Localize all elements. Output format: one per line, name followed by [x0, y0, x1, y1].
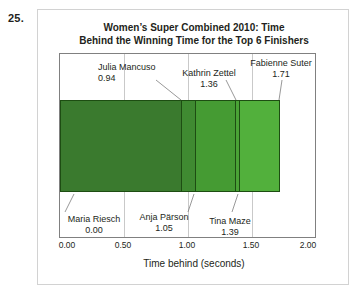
callout-tina-maze-value: 1.39 [202, 227, 258, 238]
x-tick-2: 1.00 [179, 240, 196, 250]
bar-segment-anja-parson[interactable] [195, 100, 235, 192]
callout-anja-parson-name: Anja Pärson [132, 212, 196, 223]
callout-julia-mancuso: Julia Mancuso 0.94 [98, 62, 156, 84]
stacked-bar [60, 100, 315, 192]
x-tick-3: 1.50 [243, 240, 260, 250]
callout-julia-mancuso-name: Julia Mancuso [98, 62, 156, 73]
bar-segment-maria-riesch[interactable] [60, 100, 181, 192]
bar-segment-julia-mancuso[interactable] [181, 100, 195, 192]
callout-kathrin-zettel: Kathrin Zettel 1.36 [178, 68, 240, 90]
plot-area: Julia Mancuso 0.94 Kathrin Zettel 1.36 F… [59, 53, 316, 238]
problem-number: 25. [8, 12, 24, 24]
bar-segment-tina-maze[interactable] [239, 100, 280, 192]
x-axis-ticks: 0.00 0.50 1.00 1.50 2.00 [59, 240, 316, 252]
callout-kathrin-zettel-value: 1.36 [178, 79, 240, 90]
callout-tina-maze-name: Tina Maze [202, 216, 258, 227]
callout-maria-riesch-name: Maria Riesch [62, 214, 126, 225]
callout-tina-maze: Tina Maze 1.39 [202, 216, 258, 238]
callout-fabienne-suter-name: Fabienne Suter [246, 58, 316, 69]
chart-title-line-1: Women’s Super Combined 2010: Time [38, 21, 350, 34]
callout-julia-mancuso-value: 0.94 [98, 73, 156, 84]
callout-kathrin-zettel-name: Kathrin Zettel [178, 68, 240, 79]
callout-maria-riesch-value: 0.00 [62, 225, 126, 236]
callout-anja-parson-value: 1.05 [132, 223, 196, 234]
x-tick-1: 0.50 [115, 240, 132, 250]
callout-maria-riesch: Maria Riesch 0.00 [62, 214, 126, 236]
callout-fabienne-suter: Fabienne Suter 1.71 [246, 58, 316, 80]
x-axis-label: Time behind (seconds) [38, 258, 350, 269]
chart-title: Women’s Super Combined 2010: Time Behind… [38, 21, 350, 47]
x-tick-0: 0.00 [59, 240, 76, 250]
figure-card: Women’s Super Combined 2010: Time Behind… [37, 9, 349, 285]
x-tick-4: 2.00 [300, 240, 317, 250]
chart-title-line-2: Behind the Winning Time for the Top 6 Fi… [38, 34, 350, 47]
callout-anja-parson: Anja Pärson 1.05 [132, 212, 196, 234]
callout-fabienne-suter-value: 1.71 [246, 69, 316, 80]
